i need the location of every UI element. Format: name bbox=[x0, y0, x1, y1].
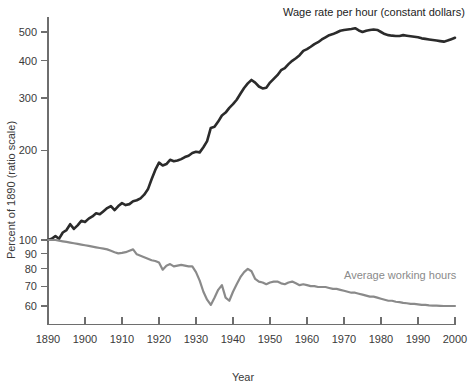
y-tick-label: 100 bbox=[19, 234, 37, 246]
y-tick-label: 70 bbox=[25, 280, 37, 292]
y-tick-label: 200 bbox=[19, 144, 37, 156]
y-tick-label: 300 bbox=[19, 92, 37, 104]
x-tick-label: 1970 bbox=[332, 333, 356, 345]
x-tick-label: 1890 bbox=[36, 333, 60, 345]
x-tick-label: 1930 bbox=[184, 333, 208, 345]
x-tick-label: 1980 bbox=[369, 333, 393, 345]
y-tick-label: 400 bbox=[19, 55, 37, 67]
x-tick-label: 2000 bbox=[443, 333, 467, 345]
x-tick-label: 1900 bbox=[73, 333, 97, 345]
x-tick-label: 1940 bbox=[221, 333, 245, 345]
x-axis-title: Year bbox=[232, 371, 255, 383]
y-tick-label: 500 bbox=[19, 26, 37, 38]
wage-and-hours-line-chart: 60708090100200300400500 1890190019101920… bbox=[0, 0, 473, 392]
x-tick-label: 1920 bbox=[147, 333, 171, 345]
series-annotation-wage-rate: Wage rate per hour (constant dollars) bbox=[283, 6, 465, 18]
x-tick-label: 1990 bbox=[406, 333, 430, 345]
y-tick-label: 80 bbox=[25, 263, 37, 275]
chart-figure: 60708090100200300400500 1890190019101920… bbox=[0, 0, 473, 392]
y-tick-label: 90 bbox=[25, 248, 37, 260]
y-tick-label: 60 bbox=[25, 300, 37, 312]
x-tick-label: 1910 bbox=[110, 333, 134, 345]
series-annotation-working-hours: Average working hours bbox=[344, 269, 457, 281]
y-axis-title: Percent of 1890 (ratio scale) bbox=[5, 121, 17, 259]
x-tick-label: 1950 bbox=[258, 333, 282, 345]
x-tick-label: 1960 bbox=[295, 333, 319, 345]
